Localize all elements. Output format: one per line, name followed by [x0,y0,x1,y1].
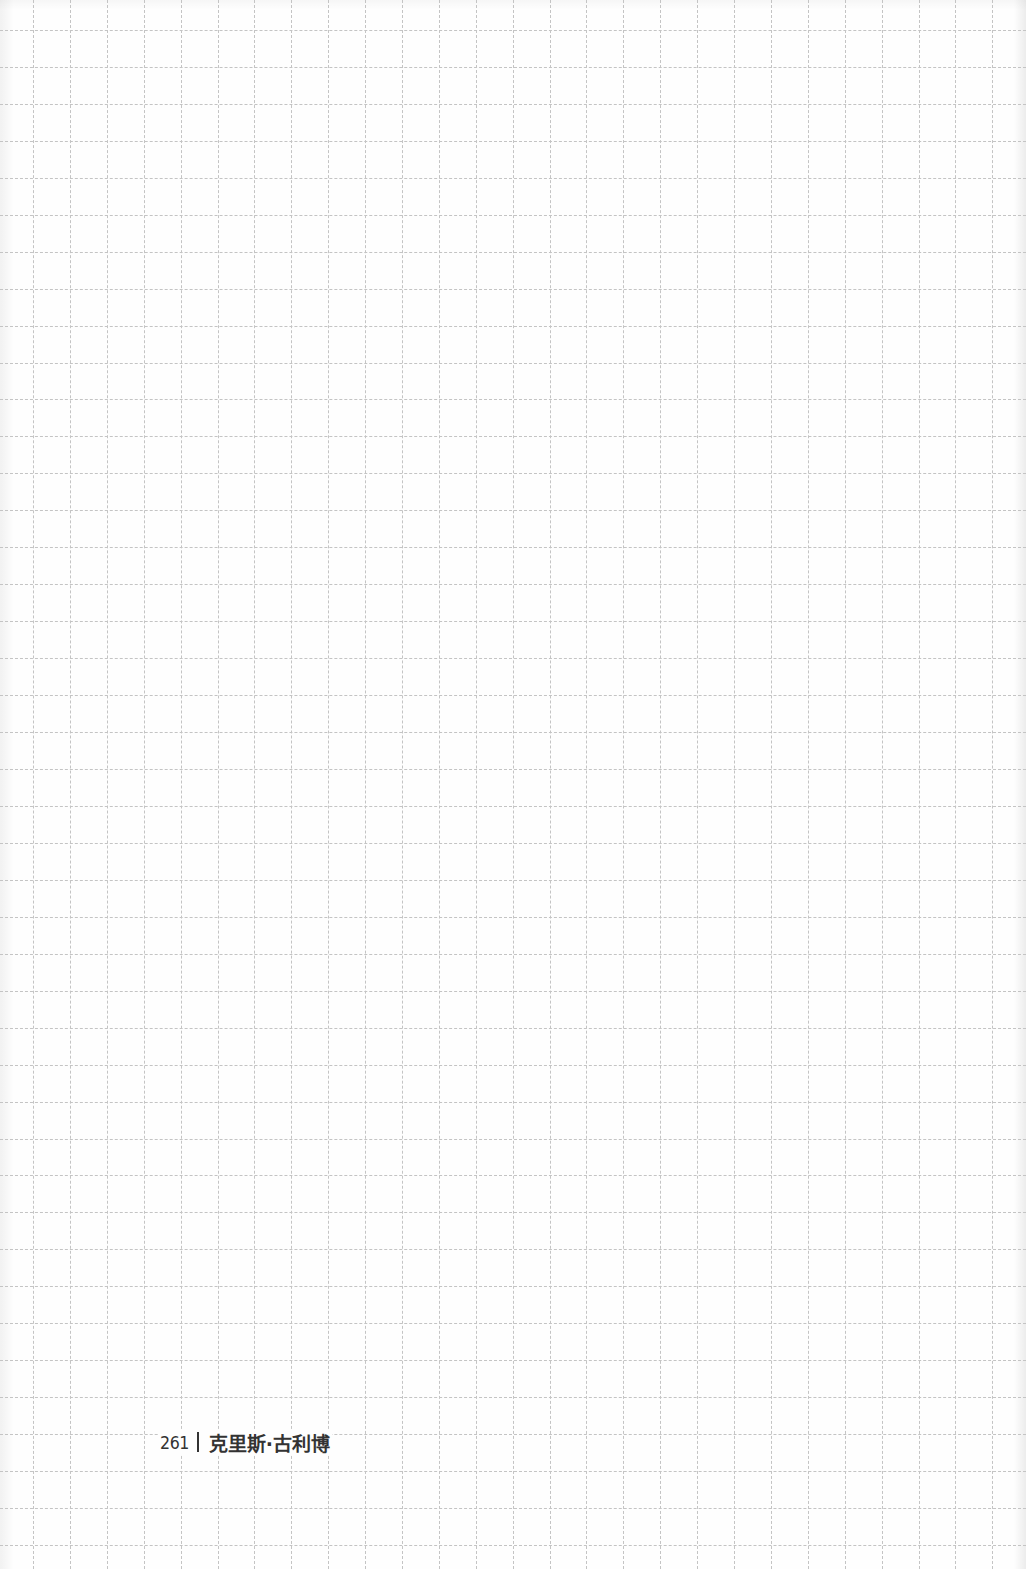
grid-line-horizontal [0,326,1026,327]
grid-line-vertical [291,0,292,1569]
grid-line-horizontal [0,510,1026,511]
grid-line-horizontal [0,991,1026,992]
grid-line-horizontal [0,1212,1026,1213]
grid-line-horizontal [0,1102,1026,1103]
grid-line-vertical [660,0,661,1569]
grid-line-vertical [144,0,145,1569]
grid-line-vertical [439,0,440,1569]
grid-line-horizontal [0,178,1026,179]
grid-line-vertical [697,0,698,1569]
grid-line-horizontal [0,1175,1026,1176]
grid-line-horizontal [0,769,1026,770]
grid-line-horizontal [0,1249,1026,1250]
grid-line-vertical [586,0,587,1569]
grid-line-vertical [992,0,993,1569]
grid-line-horizontal [0,584,1026,585]
grid-line-vertical [513,0,514,1569]
grid-line-horizontal [0,252,1026,253]
grid-line-horizontal [0,289,1026,290]
grid-line-vertical [550,0,551,1569]
grid-line-horizontal [0,1434,1026,1435]
grid-line-horizontal [0,658,1026,659]
grid-line-vertical [328,0,329,1569]
grid-line-vertical [107,0,108,1569]
grid-line-horizontal [0,806,1026,807]
grid-line-vertical [254,0,255,1569]
grid-line-horizontal [0,1471,1026,1472]
grid-line-horizontal [0,363,1026,364]
grid-line-horizontal [0,436,1026,437]
grid-line-vertical [70,0,71,1569]
grid-line-horizontal [0,1065,1026,1066]
grid-line-horizontal [0,104,1026,105]
grid-line-horizontal [0,30,1026,31]
grid-line-vertical [402,0,403,1569]
grid-line-horizontal [0,880,1026,881]
grid-line-horizontal [0,215,1026,216]
page-footer: 261 克里斯·古利博 [158,1429,332,1455]
grid-line-horizontal [0,1139,1026,1140]
grid-line-horizontal [0,1508,1026,1509]
grid-line-vertical [476,0,477,1569]
grid-line-horizontal [0,67,1026,68]
grid-line-horizontal [0,621,1026,622]
grid-line-vertical [181,0,182,1569]
grid-line-vertical [33,0,34,1569]
grid-line-horizontal [0,917,1026,918]
grid-line-horizontal [0,1323,1026,1324]
grid-line-vertical [365,0,366,1569]
grid-line-vertical [919,0,920,1569]
grid-line-horizontal [0,1286,1026,1287]
author-name: 克里斯·古利博 [209,1429,330,1456]
grid-line-vertical [808,0,809,1569]
grid-line-horizontal [0,1545,1026,1546]
grid-line-horizontal [0,473,1026,474]
grid-line-horizontal [0,1397,1026,1398]
page-number: 261 [160,1432,189,1453]
grid-line-horizontal [0,1360,1026,1361]
grid-line-horizontal [0,399,1026,400]
grid-line-horizontal [0,547,1026,548]
grid-line-horizontal [0,695,1026,696]
grid-line-vertical [882,0,883,1569]
footer-separator [197,1432,199,1452]
grid-line-vertical [734,0,735,1569]
grid-line-horizontal [0,954,1026,955]
grid-line-vertical [218,0,219,1569]
grid-line-vertical [955,0,956,1569]
grid-line-horizontal [0,141,1026,142]
grid-line-vertical [623,0,624,1569]
grid-line-horizontal [0,1028,1026,1029]
grid-line-vertical [845,0,846,1569]
grid-line-horizontal [0,843,1026,844]
notebook-page: 261 克里斯·古利博 [0,0,1026,1569]
dashed-grid [0,0,1026,1569]
grid-line-vertical [771,0,772,1569]
grid-line-horizontal [0,732,1026,733]
